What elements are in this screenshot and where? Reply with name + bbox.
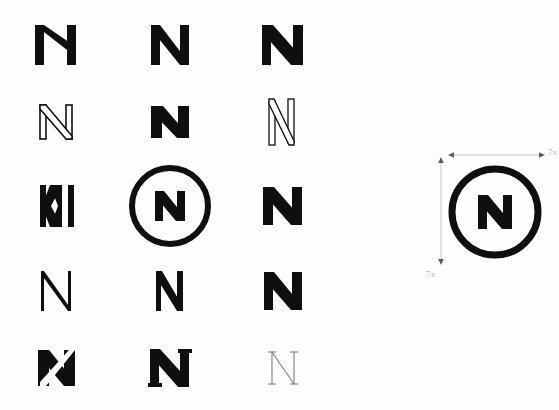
- n-glyph-medium-condensed: [153, 269, 187, 313]
- n-glyph-bold-geometric: [147, 23, 193, 67]
- n-glyph-thin-serif: [267, 348, 299, 388]
- n-glyph-bold-angled-diagonal: [32, 23, 82, 67]
- n-glyph-extra-bold-compact: [149, 103, 191, 141]
- n-glyph-bold-flared-serif: [146, 347, 194, 389]
- width-dimension-arrow: [448, 150, 545, 160]
- logo-variant-cell[interactable]: [0, 83, 113, 160]
- logo-variant-cell[interactable]: [227, 160, 340, 252]
- logo-variant-cell[interactable]: [227, 329, 340, 406]
- n-glyph-thin-geometric: [38, 269, 76, 313]
- logo-variant-cell[interactable]: [0, 6, 113, 83]
- n-glyph-bold-sharp-diagonal: [261, 270, 305, 312]
- logo-variant-cell[interactable]: [227, 83, 340, 160]
- logo-exploration-sheet: 7x 7x: [0, 0, 559, 410]
- logo-variant-cell[interactable]: [113, 252, 226, 329]
- n-glyph-split-stem-wedge: [38, 183, 76, 229]
- logo-variant-cell[interactable]: [113, 6, 226, 83]
- n-glyph-bold-wide-diagonal: [260, 185, 306, 227]
- logo-variant-cell[interactable]: [113, 329, 226, 406]
- logo-variant-cell[interactable]: [0, 252, 113, 329]
- height-dimension-label: 7x: [426, 270, 435, 279]
- logo-variant-cell[interactable]: [113, 83, 226, 160]
- n-glyph-outline-condensed-tall: [267, 97, 299, 147]
- n-glyph-circle-enclosed-bold: [124, 160, 216, 252]
- n-glyph-bold-slashed-counter: [35, 348, 79, 388]
- logo-variant-cell[interactable]: [0, 160, 113, 252]
- spec-logo-mark[interactable]: [443, 160, 547, 264]
- n-glyph-bold-heavy-diagonal: [259, 23, 307, 67]
- logo-variant-cell[interactable]: [227, 6, 340, 83]
- construction-spec-panel: 7x 7x: [415, 136, 559, 282]
- logo-variant-cell[interactable]: [0, 329, 113, 406]
- logo-variant-grid: [0, 6, 340, 406]
- logo-variant-cell-selected[interactable]: [113, 160, 226, 252]
- n-glyph-outline-light: [37, 102, 77, 142]
- width-dimension-label: 7x: [548, 148, 557, 157]
- n-glyph-circle-enclosed-bold: [443, 160, 547, 264]
- logo-variant-cell[interactable]: [227, 252, 340, 329]
